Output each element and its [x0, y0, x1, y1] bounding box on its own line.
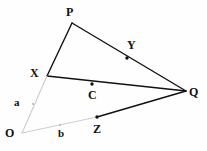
- segment-o-x: [22, 76, 47, 133]
- point-dot-c: [90, 82, 93, 85]
- label-point-y: Y: [127, 39, 136, 51]
- point-dot-b: [59, 124, 61, 126]
- label-point-z: Z: [93, 123, 101, 135]
- label-segment-b: b: [58, 128, 64, 139]
- geometry-figure: P X Q O Y C Z a b: [0, 0, 207, 151]
- label-point-o: O: [5, 127, 14, 139]
- point-dot-a: [32, 103, 34, 105]
- segment-x-p: [47, 23, 72, 76]
- label-point-c: C: [88, 89, 97, 101]
- label-point-p: P: [66, 6, 73, 18]
- segment-z-q: [97, 91, 186, 117]
- point-dot-z: [95, 115, 98, 118]
- segments-group: [22, 23, 186, 133]
- label-point-q: Q: [189, 86, 198, 98]
- label-point-x: X: [30, 67, 39, 79]
- points-group: [32, 56, 129, 126]
- point-dot-y: [125, 56, 128, 59]
- label-segment-a: a: [14, 97, 20, 108]
